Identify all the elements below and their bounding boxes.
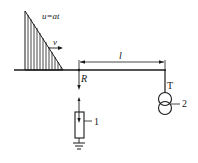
distance-dimension bbox=[79, 60, 165, 70]
arrester-number-label: 1 bbox=[94, 116, 99, 127]
transformer bbox=[159, 70, 181, 115]
surge-arrester bbox=[75, 112, 92, 143]
wave-label: u=at bbox=[42, 11, 60, 21]
distance-label: l bbox=[119, 50, 122, 61]
point-r-label: R bbox=[80, 73, 87, 84]
transformer-number-label: 2 bbox=[182, 98, 187, 109]
ground-icon bbox=[73, 143, 85, 149]
lightning-wave-diagram: u=at v l R 1 T 2 bbox=[0, 0, 198, 163]
transformer-tag-label: T bbox=[167, 80, 173, 91]
velocity-label: v bbox=[53, 37, 57, 47]
